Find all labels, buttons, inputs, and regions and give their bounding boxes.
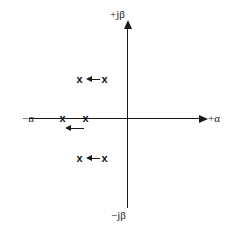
pole-marker-real-left: x xyxy=(58,113,67,124)
pole-marker-upper-right: x xyxy=(100,74,109,85)
pole-motion-arrow-upper-icon xyxy=(86,76,100,83)
pole-marker-lower-left: x xyxy=(75,153,84,164)
pole-marker-lower-right: x xyxy=(100,153,109,164)
pole-marker-real-right: x xyxy=(81,113,90,124)
root-locus-figure: +jβ −jβ −α +α x x x x x x xyxy=(0,0,232,232)
imaginary-axis-positive-label: +jβ xyxy=(110,9,125,20)
real-axis-positive-label: +α xyxy=(208,113,220,124)
real-axis-negative-label: −α xyxy=(22,113,34,124)
real-axis-arrow-icon xyxy=(199,115,208,123)
pole-motion-arrow-lower-icon xyxy=(86,155,100,162)
imaginary-axis-negative-label: −jβ xyxy=(111,210,126,221)
pole-marker-upper-left: x xyxy=(75,74,84,85)
imaginary-axis-arrow-icon xyxy=(124,20,132,29)
real-axis-line xyxy=(29,118,201,119)
pole-motion-arrow-real-icon xyxy=(65,125,84,132)
imaginary-axis-line xyxy=(127,26,128,208)
